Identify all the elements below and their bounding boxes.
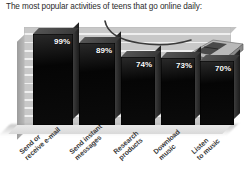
category-label-4: Download music: [152, 128, 187, 162]
bar-4[interactable]: 73%: [161, 58, 195, 125]
chart-title: The most popular activities of teens tha…: [6, 2, 202, 11]
chart-plot-area: 99%89%74%73%70%: [0, 20, 251, 140]
bar-value-label: 89%: [96, 46, 112, 55]
category-label-5: Listen to music: [190, 131, 222, 162]
bar-value-label: 73%: [176, 61, 192, 70]
bar-1[interactable]: 99%: [33, 34, 73, 125]
chart-root: The most popular activities of teens tha…: [0, 0, 251, 181]
bar-5[interactable]: 70%: [200, 61, 234, 125]
bar-value-label: 99%: [54, 37, 70, 46]
bar-front-face: [79, 43, 115, 125]
category-label-2: Send instant messages: [68, 123, 109, 162]
category-label-3: Research products: [112, 129, 146, 161]
bar-3[interactable]: 74%: [121, 57, 155, 125]
bar-value-label: 74%: [136, 60, 152, 69]
bar-front-face: [33, 34, 73, 125]
bar-2[interactable]: 89%: [79, 43, 115, 125]
category-axis-labels: Send or receive e-mailSend instant messa…: [0, 128, 251, 181]
bar-value-label: 70%: [215, 64, 231, 73]
